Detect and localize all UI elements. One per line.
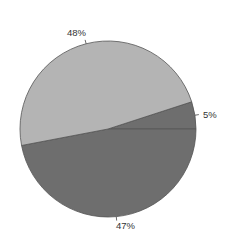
- label-48-percent: 48%: [67, 27, 87, 38]
- label-5-percent: 5%: [203, 109, 217, 120]
- label-47-percent: 47%: [116, 220, 136, 231]
- pie-chart: 48% 5% 47%: [0, 0, 232, 245]
- pie-slice-47-percent: [22, 129, 196, 217]
- label-tick: [195, 115, 199, 116]
- label-tick: [85, 40, 86, 44]
- pie-slices: [20, 41, 196, 217]
